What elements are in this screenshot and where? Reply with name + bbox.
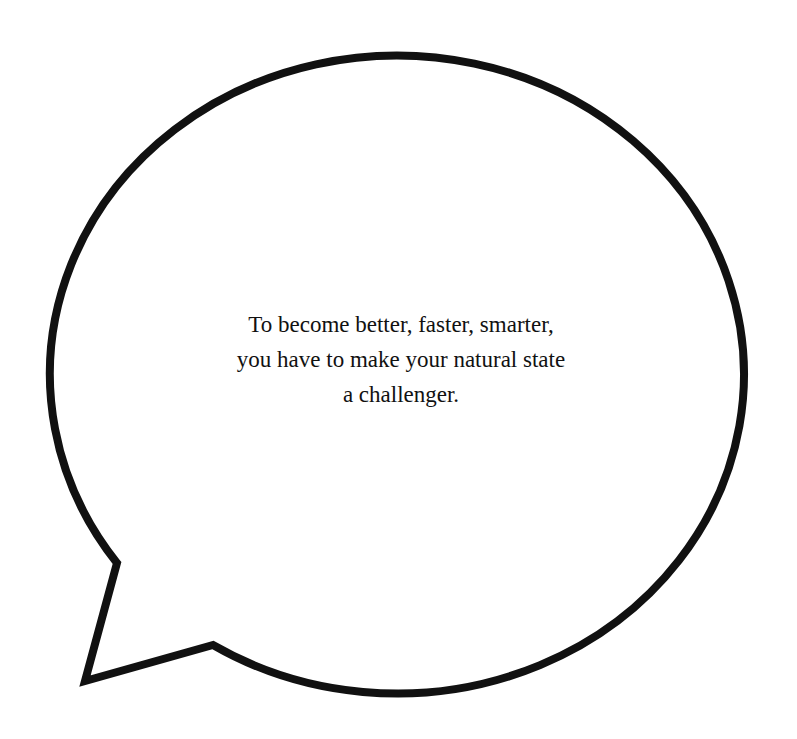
quote-line-3: a challenger. (130, 377, 672, 412)
quote-line-2: you have to make your natural state (130, 342, 672, 377)
speech-bubble-text: To become better, faster, smarter, you h… (130, 307, 672, 412)
quote-line-1: To become better, faster, smarter, (130, 307, 672, 342)
